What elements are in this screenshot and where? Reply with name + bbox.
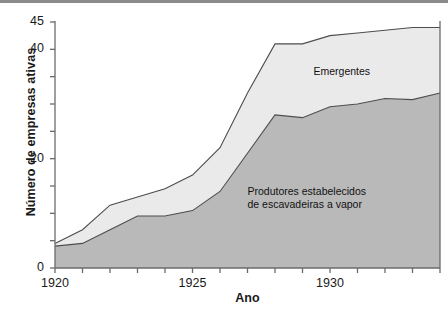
x-tick-label: 1920 xyxy=(25,276,85,290)
y-tick-label: 45 xyxy=(4,14,44,28)
area-chart-plot xyxy=(0,0,448,314)
y-tick-label: 40 xyxy=(4,41,44,55)
series-label-estabelecidos-line1: Produtores estabelecidos xyxy=(248,185,367,197)
y-tick-label: 0 xyxy=(4,260,44,274)
x-axis-title: Ano xyxy=(55,291,440,305)
x-tick-label: 1925 xyxy=(163,276,223,290)
series-label-estabelecidos: Produtores estabelecidos de escavadeiras… xyxy=(248,185,367,211)
series-label-emergentes: Emergentes xyxy=(314,65,371,78)
y-tick-label: 20 xyxy=(4,151,44,165)
x-tick-label: 1930 xyxy=(300,276,360,290)
chart-figure: Número de empresas ativas Ano 0204045 19… xyxy=(0,0,448,314)
series-label-estabelecidos-line2: de escavadeiras a vapor xyxy=(248,198,362,210)
